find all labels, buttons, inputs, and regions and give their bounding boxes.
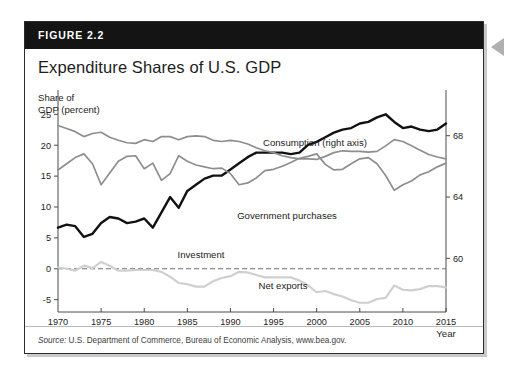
y-tick-label-left: -5 xyxy=(43,295,51,305)
series-label-net-exports: Net exports xyxy=(258,280,307,291)
y-tick-label-left: 20 xyxy=(41,141,51,151)
figure-container: FIGURE 2.2 Expenditure Shares of U.S. GD… xyxy=(0,0,521,381)
left-pointing-triangle-icon xyxy=(491,38,504,56)
series-label-government-purchases: Government purchases xyxy=(237,210,337,221)
y-tick-label-left: 0 xyxy=(46,264,51,274)
source-divider xyxy=(25,326,483,327)
series-line-investment xyxy=(58,154,446,190)
series-label-investment: Investment xyxy=(178,249,225,260)
expenditure-shares-line-chart: 2520151050-56864601970197519801985199019… xyxy=(25,22,485,355)
source-note: Source: U.S. Department of Commerce, Bur… xyxy=(38,336,346,345)
y-tick-label-left: 25 xyxy=(41,110,51,120)
y-tick-label-left: 10 xyxy=(41,202,51,212)
y-tick-label-right: 64 xyxy=(453,192,463,202)
y-tick-label-right: 60 xyxy=(453,254,463,264)
source-prefix: Source: xyxy=(38,336,66,345)
chart-plot-area: 2520151050-56864601970197519801985199019… xyxy=(25,22,485,355)
series-label-consumption: Consumption (right axis) xyxy=(263,137,367,148)
series-line-net-exports xyxy=(58,262,446,303)
y-tick-label-left: 5 xyxy=(46,233,51,243)
source-text: U.S. Department of Commerce, Bureau of E… xyxy=(66,336,346,345)
figure-card: FIGURE 2.2 Expenditure Shares of U.S. GD… xyxy=(24,21,484,354)
x-axis-title: Year xyxy=(436,328,456,339)
y-tick-label-left: 15 xyxy=(41,171,51,181)
y-tick-label-right: 68 xyxy=(453,131,463,141)
